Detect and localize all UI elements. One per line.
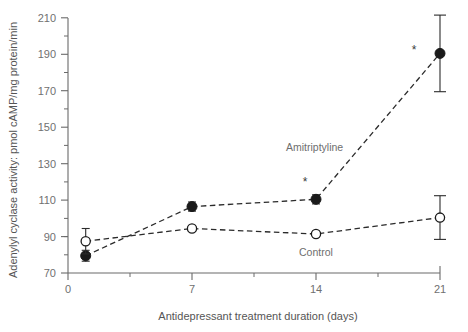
y-tick-label: 150	[38, 121, 56, 133]
data-point-control	[311, 229, 320, 238]
y-tick-label: 70	[44, 267, 56, 279]
x-axis-tick-labels: 0 7 14 21	[65, 283, 446, 295]
series-control	[81, 196, 446, 254]
data-point-amitriptyline	[435, 48, 445, 58]
data-point-control	[81, 237, 90, 246]
amitriptyline-line	[86, 53, 440, 255]
y-tick-label: 170	[38, 85, 56, 97]
data-point-amitriptyline	[187, 202, 197, 212]
control-errorbars	[82, 196, 446, 254]
data-point-amitriptyline	[311, 194, 321, 204]
control-line	[86, 218, 440, 242]
series-label-control: Control	[299, 246, 333, 258]
y-tick-label: 210	[38, 12, 56, 24]
x-tick-label: 0	[65, 283, 71, 295]
x-tick-label: 14	[310, 283, 322, 295]
adenylyl-cyclase-activity-chart: Adenylyl cyclase activity: pmol cAMP/mg …	[0, 0, 468, 332]
x-axis-title: Antidepressant treatment duration (days)	[158, 310, 357, 322]
data-point-control	[187, 224, 196, 233]
data-point-control	[435, 213, 444, 222]
y-tick-label: 190	[38, 48, 56, 60]
y-tick-label: 90	[44, 231, 56, 243]
x-axis-ticks	[68, 273, 440, 280]
y-tick-label: 110	[38, 194, 56, 206]
significance-marker-day21: *	[412, 43, 417, 57]
y-axis-tick-labels: 70 90 110 130 150 170 190 210	[38, 12, 56, 279]
significance-marker-day14: *	[303, 175, 308, 189]
x-tick-label: 21	[434, 283, 446, 295]
y-axis-title: Adenylyl cyclase activity: pmol cAMP/mg …	[7, 22, 19, 278]
y-axis-ticks	[61, 18, 68, 273]
series-label-amitriptyline: Amitriptyline	[286, 141, 343, 153]
x-tick-label: 7	[189, 283, 195, 295]
y-tick-label: 130	[38, 158, 56, 170]
